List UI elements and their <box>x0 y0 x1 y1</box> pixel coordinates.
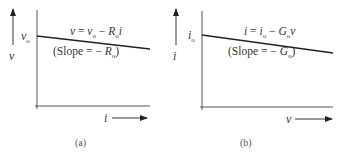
panel-b-intercept-label: io <box>188 29 195 44</box>
slope-symbol: G <box>280 45 288 57</box>
eq-equals: = <box>75 25 87 37</box>
eq-minus: − <box>96 25 108 37</box>
intercept-subscript: o <box>191 36 195 44</box>
eq-equals: = <box>247 25 259 37</box>
panel-a-intercept-label: vo <box>21 30 30 45</box>
intercept-subscript: o <box>26 37 30 45</box>
panel-b-equation: i = io − Gov <box>244 26 295 40</box>
eq-term3: i <box>119 25 122 37</box>
panel-b-x-axis-label: v <box>286 113 291 125</box>
panel-b-y-axis-label: i <box>173 50 176 62</box>
slope-close: ) <box>291 45 295 57</box>
panel-a-equation: v = vo − Roi <box>70 26 122 40</box>
panel-a-slope-note: (Slope = − Ro) <box>53 46 119 60</box>
slope-symbol: R <box>105 45 112 57</box>
panel-b-slope-note: (Slope = − Go) <box>228 46 295 60</box>
panel-a-y-axis-label: v <box>9 50 14 62</box>
slope-open: (Slope = − <box>228 45 280 57</box>
slope-close: ) <box>115 45 119 57</box>
panel-a-caption: (a) <box>75 138 86 148</box>
eq-term2: G <box>278 25 286 37</box>
slope-open: (Slope = − <box>53 45 105 57</box>
eq-term3: v <box>290 25 295 37</box>
diagram-canvas <box>0 0 341 154</box>
eq-minus: − <box>266 25 278 37</box>
panel-b-caption: (b) <box>240 138 252 148</box>
panel-a-x-axis-label: i <box>104 112 107 124</box>
